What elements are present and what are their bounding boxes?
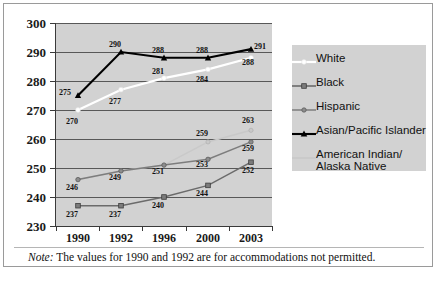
series-line-american-indian	[78, 130, 251, 179]
data-label-hispanic-2000: 253	[196, 161, 208, 169]
legend-marker-american-indian-icon	[292, 150, 316, 162]
x-axis-label-2003: 2003	[229, 232, 273, 244]
y-axis-label-230: 230	[12, 220, 46, 233]
legend-item-american-indian[interactable]: American Indian/ Alaska Native	[292, 148, 402, 172]
y-axis-label-250: 250	[12, 162, 46, 175]
y-axis-label-270: 270	[12, 104, 46, 117]
y-axis-label-260: 260	[12, 133, 46, 146]
data-label-amind-2000: 259	[196, 130, 208, 138]
legend-item-white[interactable]: White	[292, 52, 345, 66]
data-label-white-1996: 281	[152, 68, 164, 76]
figure-caption	[55, 271, 395, 280]
data-label-asian-1990: 275	[59, 89, 71, 97]
data-label-black-1990: 237	[66, 211, 78, 219]
legend-item-hispanic[interactable]: Hispanic	[292, 100, 360, 114]
data-label-black-1992: 237	[109, 211, 121, 219]
figure-panel: 300 290 280 270 260 250 240 230 1990 199…	[3, 3, 433, 267]
x-tickmark-0	[56, 226, 57, 231]
data-label-hispanic-1996: 251	[152, 168, 164, 176]
note-prefix: Note:	[28, 251, 54, 263]
note-divider	[14, 247, 424, 248]
x-tickmark-4	[229, 226, 230, 231]
data-label-white-2003: 288	[242, 59, 254, 67]
data-label-black-2003: 252	[242, 167, 254, 175]
y-axis-label-240: 240	[12, 191, 46, 204]
x-tickmark-5	[272, 226, 273, 231]
data-label-hispanic-2003: 259	[242, 145, 254, 153]
x-axis-label-2000: 2000	[186, 232, 230, 244]
data-label-black-2000: 244	[196, 190, 208, 198]
y-axis-label-280: 280	[12, 75, 46, 88]
legend-marker-black-icon	[292, 78, 316, 90]
data-label-black-1996: 240	[152, 202, 164, 210]
data-label-asian-2000: 288	[196, 47, 208, 55]
x-axis-label-1996: 1996	[142, 232, 186, 244]
data-label-asian-2003: 291	[254, 43, 266, 51]
series-lines-svg	[56, 23, 272, 226]
chart-legend: White Black Hispanic Asian/Pacific Islan…	[292, 45, 426, 171]
data-label-hispanic-1992: 249	[109, 174, 121, 182]
legend-marker-hispanic-icon	[292, 102, 316, 114]
legend-label-black: Black	[316, 76, 344, 88]
chart-area: 300 290 280 270 260 250 240 230 1990 199…	[4, 4, 289, 247]
legend-item-asian-pacific-islander[interactable]: Asian/Pacific Islander	[292, 124, 426, 138]
legend-label-american-indian-line2: Alaska Native	[316, 160, 402, 172]
y-axis-label-300: 300	[12, 17, 46, 30]
legend-marker-white-icon	[292, 54, 316, 66]
x-tickmark-2	[142, 226, 143, 231]
chart-note: Note: The values for 1990 and 1992 are f…	[28, 251, 375, 264]
legend-label-american-indian-line1: American Indian/	[316, 148, 402, 160]
data-label-white-1992: 277	[109, 98, 121, 106]
legend-marker-asian-pacific-islander-icon	[292, 126, 316, 138]
x-axis-label-1990: 1990	[56, 232, 100, 244]
legend-item-black[interactable]: Black	[292, 76, 344, 90]
series-line-white	[78, 58, 251, 110]
data-label-hispanic-1990: 246	[66, 184, 78, 192]
data-label-asian-1992: 290	[109, 41, 121, 49]
note-text: The values for 1990 and 1992 are for acc…	[54, 251, 376, 263]
data-label-amind-2003: 263	[242, 117, 254, 125]
data-label-white-2000: 284	[196, 76, 208, 84]
x-tickmark-1	[99, 226, 100, 231]
y-axis-label-290: 290	[12, 46, 46, 59]
legend-label-white: White	[316, 52, 345, 64]
x-axis-label-1992: 1992	[99, 232, 143, 244]
legend-label-asian-pacific-islander: Asian/Pacific Islander	[316, 124, 426, 136]
data-label-white-1990: 270	[66, 118, 78, 126]
series-line-hispanic	[78, 142, 251, 180]
x-axis-line	[55, 226, 273, 227]
x-tickmark-3	[186, 226, 187, 231]
legend-label-hispanic: Hispanic	[316, 100, 360, 112]
data-label-asian-1996: 288	[152, 47, 164, 55]
